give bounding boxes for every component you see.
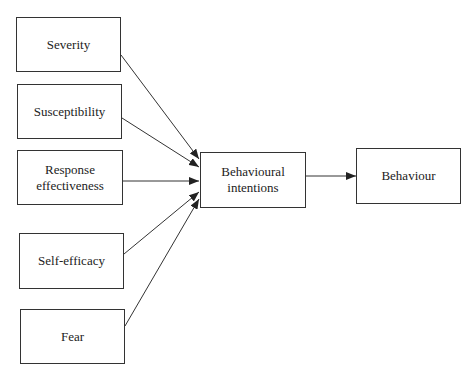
node-fear: Fear (20, 309, 125, 364)
arrow-self-efficacy (124, 192, 199, 254)
node-response-label-line2: effectiveness (36, 178, 104, 194)
node-behavioural-intentions: Behavioural intentions (200, 152, 306, 208)
node-intentions-label-line1: Behavioural (221, 164, 285, 180)
arrow-fear (125, 199, 199, 326)
node-susceptibility-label: Susceptibility (34, 104, 106, 120)
node-self-efficacy: Self-efficacy (19, 233, 124, 289)
node-behaviour-label: Behaviour (381, 168, 435, 184)
node-self-efficacy-label: Self-efficacy (38, 253, 105, 269)
node-intentions-label-line2: intentions (227, 180, 278, 196)
node-susceptibility: Susceptibility (17, 84, 122, 139)
arrow-susceptibility (122, 118, 199, 167)
node-behaviour: Behaviour (356, 148, 461, 204)
node-response-label-line1: Response (45, 162, 95, 178)
arrow-severity (121, 55, 199, 159)
node-severity: Severity (16, 17, 121, 72)
node-response-effectiveness: Response effectiveness (17, 150, 123, 205)
node-fear-label: Fear (61, 329, 84, 345)
node-severity-label: Severity (47, 37, 90, 53)
